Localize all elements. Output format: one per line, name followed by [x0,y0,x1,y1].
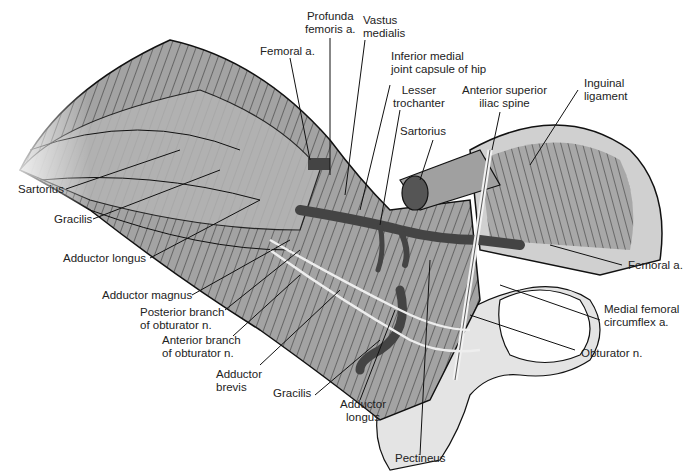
label-sartorius-left: Sartorius [18,183,64,196]
label-pectineus: Pectineus [395,452,446,465]
label-adductor-longus-left: Adductor longus [63,252,146,265]
label-gracilis-bottom: Gracilis [273,387,311,400]
label-adductor-longus-bottom: Adductor longus [340,398,386,424]
label-lesser-trochanter: Lesser trochanter [393,84,445,110]
label-anterior-branch: Anterior branch of obturator n. [162,334,241,360]
label-adductor-brevis: Adductor brevis [216,368,262,394]
label-sartorius-right: Sartorius [400,125,446,138]
label-inguinal-ligament: Inguinal ligament [584,77,627,103]
label-adductor-magnus: Adductor magnus [102,289,192,302]
label-gracilis-left: Gracilis [54,213,92,226]
label-obturator-n: Obturator n. [581,347,642,360]
label-posterior-branch: Posterior branch of obturator n. [140,306,224,332]
label-profunda-femoris: Profunda femoris a. [305,10,356,36]
label-femoral-a-top: Femoral a. [260,45,315,58]
label-medial-femoral-circumflex: Medial femoral circumflex a. [604,303,679,329]
label-asis: Anterior superior iliac spine [462,84,547,110]
label-femoral-a-right: Femoral a. [628,259,683,272]
label-inferior-medial-capsule: Inferior medial joint capsule of hip [391,50,486,76]
label-vastus-medialis: Vastus medialis [363,14,405,40]
